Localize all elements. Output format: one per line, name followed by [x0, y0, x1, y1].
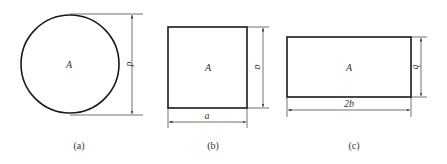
panel-c-rectangle: A b 2b (c): [287, 37, 427, 152]
area-label-c: A: [345, 62, 353, 73]
cross-section-diagram: A d (a) A a a (b) A b 2b (c): [0, 0, 447, 164]
caption-b: (b): [207, 140, 219, 152]
diameter-label: d: [125, 62, 136, 68]
area-label-b: A: [204, 62, 212, 73]
panel-b-square: A a a (b): [168, 27, 269, 152]
width-label: 2b: [344, 98, 354, 109]
side-horizontal-label: a: [205, 110, 210, 121]
area-label-a: A: [65, 59, 73, 70]
caption-a: (a): [73, 140, 84, 152]
caption-c: (c): [348, 140, 359, 152]
height-label: b: [411, 65, 422, 70]
side-vertical-label: a: [253, 65, 264, 70]
panel-a-circle: A d (a): [21, 14, 143, 152]
